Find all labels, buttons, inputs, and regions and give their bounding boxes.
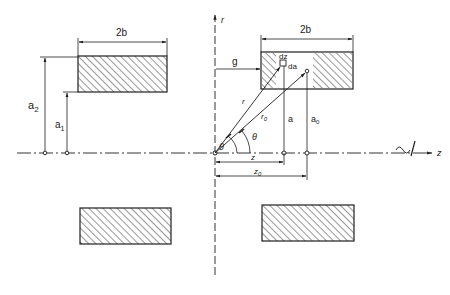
z-label: z	[250, 153, 255, 162]
a2-dimension: a2	[28, 57, 78, 155]
width-label-left: 2b	[116, 27, 128, 38]
g-dimension: g	[216, 56, 260, 69]
z0-dimension: z0	[216, 167, 306, 177]
theta-outer-label: θ	[252, 132, 257, 142]
upper-left-coil	[78, 56, 167, 92]
a2-label: a2	[28, 99, 39, 114]
theta-inner-label: θ	[219, 142, 224, 152]
coil-diagram: z r 2b 2b a2 a1 g	[0, 0, 450, 295]
z-dimension: z	[216, 153, 284, 165]
width-dimension-left: 2b	[78, 27, 167, 56]
a0-label: a0	[311, 114, 320, 125]
z-axis: z	[17, 141, 442, 158]
a-label: a	[288, 114, 293, 124]
r-axis-label: r	[221, 15, 225, 25]
r0-label: r0	[261, 112, 268, 122]
z0-label: z0	[253, 167, 262, 177]
lower-right-coil	[262, 205, 354, 241]
da-label: da	[288, 62, 297, 71]
a1-dimension: a1	[55, 92, 78, 155]
dz-label: dz	[279, 52, 287, 61]
a1-label: a1	[55, 119, 65, 132]
width-dimension-right: 2b	[261, 24, 353, 52]
z-axis-label: z	[436, 148, 442, 158]
r-label: r	[242, 97, 245, 106]
width-label-right: 2b	[300, 24, 312, 35]
wave-icon	[396, 147, 410, 153]
lower-left-coil	[80, 208, 171, 244]
g-label: g	[232, 56, 238, 67]
